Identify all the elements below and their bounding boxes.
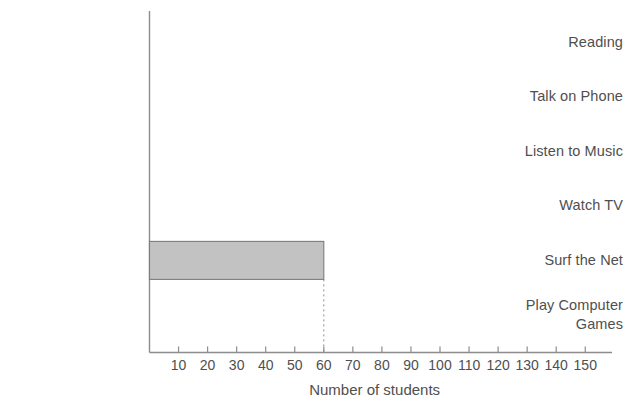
- x-tick-label: 90: [403, 357, 419, 373]
- x-tick-label: 100: [428, 357, 451, 373]
- category-label: Play Computer Games: [481, 296, 629, 334]
- x-tick-label: 110: [458, 357, 480, 373]
- category-label: Listen to Music: [481, 142, 629, 161]
- category-label: Surf the Net: [481, 251, 629, 270]
- category-label: Watch TV: [481, 196, 629, 215]
- x-tick-label: 70: [345, 357, 361, 373]
- x-tick-label: 20: [200, 357, 216, 373]
- bar-series: [150, 241, 324, 279]
- x-tick-label: 80: [374, 357, 390, 373]
- bar-chart: ReadingTalk on PhoneListen to MusicWatch…: [0, 0, 629, 417]
- x-tick-label: 150: [574, 357, 597, 373]
- x-tick-label: 60: [316, 357, 332, 373]
- x-axis-title: Number of students: [309, 381, 440, 399]
- x-tick-label: 130: [515, 357, 538, 373]
- x-tick-label: 40: [258, 357, 274, 373]
- category-label: Talk on Phone: [481, 87, 629, 106]
- bar: [150, 241, 324, 279]
- x-tick-label: 120: [486, 357, 509, 373]
- x-tick-label: 10: [171, 357, 187, 373]
- x-tick-label: 30: [229, 357, 245, 373]
- x-tick-label: 140: [545, 357, 568, 373]
- x-tick-label: 50: [287, 357, 303, 373]
- x-axis-tick-marks: [179, 347, 586, 353]
- category-label: Reading: [481, 33, 629, 52]
